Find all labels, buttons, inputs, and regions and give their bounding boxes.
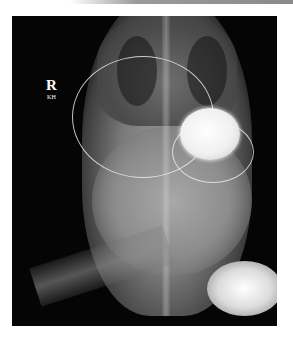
marker-initials: KH [46,93,57,101]
marker-letter: R [46,78,57,93]
top-border-bar [70,0,293,4]
implanted-device [180,108,240,160]
orientation-marker: R KH [46,78,57,101]
xray-image: R KH [12,16,277,326]
hip-region [207,261,277,316]
